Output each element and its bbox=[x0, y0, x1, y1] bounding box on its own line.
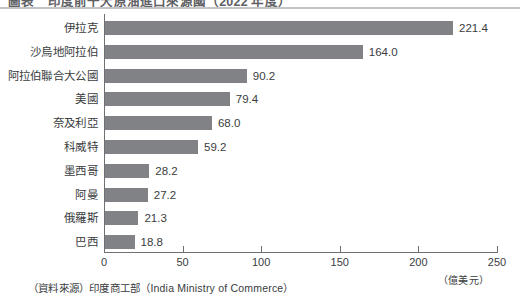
bar bbox=[105, 21, 453, 35]
bar-row: 巴西18.8 bbox=[0, 230, 520, 254]
bar-value-label: 18.8 bbox=[141, 230, 163, 254]
bar bbox=[105, 211, 138, 225]
category-label: 巴西 bbox=[0, 230, 98, 254]
x-axis-tick-label: 200 bbox=[398, 256, 438, 268]
bar bbox=[105, 116, 212, 130]
bar-value-label: 21.3 bbox=[144, 206, 166, 230]
x-axis-tick-label: 150 bbox=[320, 256, 360, 268]
bar-value-label: 221.4 bbox=[459, 16, 488, 40]
bar-row: 美國79.4 bbox=[0, 87, 520, 111]
bar-row: 墨西哥28.2 bbox=[0, 159, 520, 183]
category-label: 阿拉伯聯合大公國 bbox=[0, 64, 98, 88]
x-axis-tick bbox=[183, 246, 184, 252]
bar bbox=[105, 188, 148, 202]
bar bbox=[105, 235, 135, 249]
x-axis-tick-label: 0 bbox=[84, 256, 124, 268]
x-axis-line bbox=[104, 252, 498, 253]
bar bbox=[105, 164, 149, 178]
bar-value-label: 68.0 bbox=[218, 111, 240, 135]
category-label: 奈及利亞 bbox=[0, 111, 98, 135]
x-axis-tick-label: 50 bbox=[163, 256, 203, 268]
category-label: 科威特 bbox=[0, 135, 98, 159]
bar-row: 阿拉伯聯合大公國90.2 bbox=[0, 64, 520, 88]
bar bbox=[105, 45, 363, 59]
category-label: 墨西哥 bbox=[0, 159, 98, 183]
bar-value-label: 90.2 bbox=[253, 64, 275, 88]
bar bbox=[105, 69, 247, 83]
category-label: 美國 bbox=[0, 87, 98, 111]
x-axis-tick-label: 250 bbox=[477, 256, 517, 268]
x-axis-tick bbox=[418, 246, 419, 252]
x-axis-unit-label: （億美元） bbox=[438, 272, 489, 287]
x-axis-tick bbox=[340, 246, 341, 252]
bar-value-label: 59.2 bbox=[204, 135, 226, 159]
bar-row: 伊拉克221.4 bbox=[0, 16, 520, 40]
chart-figure: 圖表 印度前十大原油進口來源國（2022 年度） 伊拉克221.4沙烏地阿拉伯1… bbox=[0, 0, 520, 300]
y-axis-line bbox=[104, 14, 105, 252]
bar-row: 阿曼27.2 bbox=[0, 183, 520, 207]
title-divider bbox=[0, 7, 520, 9]
chart-title: 圖表 印度前十大原油進口來源國（2022 年度） bbox=[8, 0, 291, 7]
bar-value-label: 28.2 bbox=[155, 159, 177, 183]
bar-row: 沙烏地阿拉伯164.0 bbox=[0, 40, 520, 64]
bar-row: 科威特59.2 bbox=[0, 135, 520, 159]
category-label: 阿曼 bbox=[0, 183, 98, 207]
x-axis-tick bbox=[497, 246, 498, 252]
category-label: 沙烏地阿拉伯 bbox=[0, 40, 98, 64]
category-label: 伊拉克 bbox=[0, 16, 98, 40]
source-note: （資料來源）印度商工部（India Ministry of Commerce） bbox=[28, 280, 294, 295]
bar-value-label: 27.2 bbox=[154, 183, 176, 207]
bar-value-label: 79.4 bbox=[236, 87, 258, 111]
category-label: 俄羅斯 bbox=[0, 206, 98, 230]
chart-title-clipped: 圖表 印度前十大原油進口來源國（2022 年度） bbox=[0, 0, 520, 7]
x-axis-tick bbox=[104, 246, 105, 252]
plot-area: 伊拉克221.4沙烏地阿拉伯164.0阿拉伯聯合大公國90.2美國79.4奈及利… bbox=[0, 14, 520, 254]
bar bbox=[105, 92, 230, 106]
bar-row: 奈及利亞68.0 bbox=[0, 111, 520, 135]
bar-row: 俄羅斯21.3 bbox=[0, 206, 520, 230]
bar bbox=[105, 140, 198, 154]
bar-value-label: 164.0 bbox=[369, 40, 398, 64]
x-axis-tick bbox=[261, 246, 262, 252]
x-axis-tick-label: 100 bbox=[241, 256, 281, 268]
